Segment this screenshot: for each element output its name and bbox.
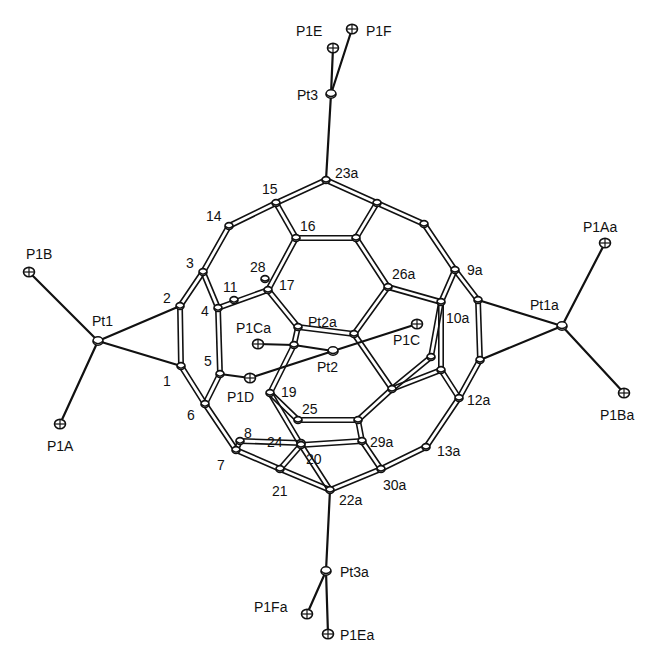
bond-C6-C7: [203, 405, 234, 451]
bond-Cr1-Cr2-back: [480, 300, 482, 360]
bond-Cb3-C9a: [422, 225, 453, 271]
bond-Cb1-Cb3-back: [378, 201, 425, 222]
atom-label-C2: 2: [163, 290, 171, 306]
atom-Cc1-icon: [294, 324, 302, 331]
atom-label-C6: 6: [187, 407, 195, 423]
atom-label-Pt3a: Pt3a: [340, 564, 369, 580]
atom-C13a-icon: [422, 444, 430, 451]
bond-C12a-C13a-back: [428, 399, 461, 448]
bond-P1F-Pt3: [331, 29, 352, 94]
bond-C1-Pt1: [98, 341, 181, 366]
atom-Pt2a-icon: [350, 331, 358, 338]
atom-C11-icon: [230, 297, 238, 304]
atom-P1C-icon: [412, 319, 423, 328]
atom-label-C14: 14: [206, 208, 222, 224]
atom-Ce1-icon: [354, 417, 362, 424]
atom-C5-icon: [216, 371, 224, 378]
atom-label-C22a: 22a: [339, 492, 363, 508]
atom-label-C10a: 10a: [446, 310, 470, 326]
bond-C26a-Pt2a: [352, 286, 386, 333]
bond-C1-C6: [179, 367, 203, 405]
atom-C29a-icon: [358, 438, 366, 445]
atom-label-Pt1: Pt1: [92, 313, 113, 329]
atom-C3-icon: [199, 269, 207, 276]
bond-C15-C14: [228, 201, 275, 224]
atom-Cc2-icon: [290, 342, 298, 349]
atom-C6-icon: [201, 401, 209, 408]
atom-C28-icon: [261, 276, 269, 283]
bond-Cr2-Pt1a: [480, 326, 562, 360]
atom-label-C4: 4: [201, 303, 209, 319]
atom-C9a-icon: [451, 267, 459, 274]
atom-label-Pt2: Pt2: [317, 359, 338, 375]
atom-C26a-icon: [384, 284, 392, 291]
bond-C20-C29a: [301, 443, 362, 447]
atom-label-P1B: P1B: [26, 246, 52, 262]
atom-label-P1D: P1D: [227, 389, 254, 405]
bond-C4-C5-back: [220, 308, 222, 374]
atom-C25-icon: [294, 417, 302, 424]
bond-Cb2-C26a: [354, 239, 386, 288]
atom-label-C16: 16: [300, 218, 316, 234]
fullerene-platinum-complex-diagram: P1EP1FPt323a1514163281711426a9a10a2Pt1P1…: [0, 0, 663, 666]
bond-Cd1-Cd3: [391, 355, 430, 387]
bond-C14-C3-back: [205, 227, 231, 273]
bond-C4-C5: [216, 308, 218, 374]
bond-Cd2-Cd3: [391, 368, 440, 387]
atom-P1Ca-icon: [253, 339, 264, 348]
atom-label-Pt1a: Pt1a: [530, 297, 559, 313]
atom-Cd3-icon: [388, 386, 396, 393]
atom-label-C12a: 12a: [467, 392, 491, 408]
atom-P1D-icon: [245, 373, 256, 382]
bond-C17-Cc1-back: [270, 289, 300, 326]
atom-Cr2-icon: [476, 357, 484, 364]
atom-C17-icon: [264, 287, 272, 294]
bond-Pt3-C23a: [326, 94, 331, 180]
atom-label-P1A: P1A: [47, 438, 74, 454]
atom-C15-icon: [272, 200, 280, 207]
bond-C20-C21-back: [282, 446, 303, 470]
bond-Pt2a-Cd3: [352, 335, 390, 390]
atom-label-Pt2a: Pt2a: [308, 314, 337, 330]
atom-P1E-icon: [328, 43, 339, 52]
atom-P1B-icon: [24, 267, 35, 276]
atom-P1Ea-icon: [323, 629, 334, 638]
atom-C20-icon: [297, 442, 305, 449]
atom-Cd2-icon: [437, 367, 445, 374]
atom-label-C29a: 29a: [370, 434, 394, 450]
bond-C14-C3: [201, 225, 227, 271]
atom-C10a-icon: [437, 299, 445, 306]
bond-C1-C6-back: [183, 365, 207, 403]
atom-P1F-icon: [347, 24, 358, 33]
bond-Cb1-Cb2-back: [358, 204, 379, 239]
bond-Cd1-Cd3-back: [393, 359, 432, 391]
atom-Cd1-icon: [427, 354, 435, 361]
atom-C19-icon: [266, 390, 274, 397]
bond-C13a-C30a-back: [382, 449, 427, 471]
atom-C21-icon: [276, 466, 284, 473]
bonds-layer: [29, 29, 624, 634]
atom-Pt1a-icon: [557, 322, 567, 331]
bond-C30a-C22a: [329, 467, 380, 488]
bond-C7-C21: [235, 452, 279, 471]
atom-label-C28: 28: [250, 259, 266, 275]
atom-label-P1Aa: P1Aa: [583, 219, 617, 235]
atom-label-C20: 20: [306, 451, 322, 467]
bond-Cr1-Cr2: [476, 300, 478, 360]
atom-label-C9a: 9a: [467, 262, 483, 278]
atom-C22a-icon: [326, 487, 334, 494]
atom-Pt1-icon: [93, 337, 103, 346]
bond-C26a-Pt2a-back: [356, 288, 390, 335]
atom-C8-icon: [236, 438, 244, 445]
atom-Pt2-icon: [328, 347, 338, 356]
atom-label-C13a: 13a: [437, 443, 461, 459]
atom-label-P1Ba: P1Ba: [600, 407, 634, 423]
atom-P1Aa-icon: [600, 238, 611, 247]
atom-C14-icon: [225, 223, 233, 230]
atom-C7-icon: [232, 447, 240, 454]
atom-label-Pt3: Pt3: [297, 87, 318, 103]
atom-C12a-icon: [455, 395, 463, 402]
atom-label-C24: 24: [267, 434, 283, 450]
atom-label-C1: 1: [163, 373, 171, 389]
bond-Cc2-Pt2: [294, 345, 333, 351]
